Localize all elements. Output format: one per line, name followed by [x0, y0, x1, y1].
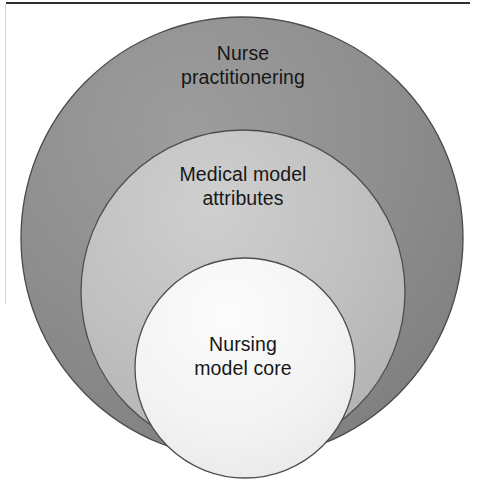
nested-circles-diagram — [0, 0, 486, 495]
figure-root: Nurse practitionering Medical model attr… — [0, 0, 486, 495]
circle-inner-nursing-model-core — [135, 258, 355, 478]
diagram-canvas — [0, 0, 486, 495]
